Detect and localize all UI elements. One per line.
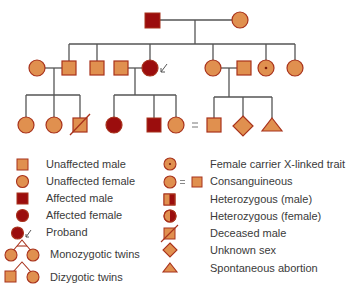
legend-label-heterozygous-female: Heterozygous (female)	[210, 210, 321, 223]
unaffected-male-symbol	[207, 118, 221, 132]
unaffected-male-symbol	[62, 61, 76, 75]
unaffected-male-symbol	[237, 61, 251, 75]
proband-icon	[12, 227, 24, 239]
unaffected-male-symbol	[114, 61, 128, 75]
heterozygous-male-icon	[164, 194, 175, 205]
monozygotic-twins-icon	[5, 240, 39, 261]
legend-right-icons	[161, 158, 202, 272]
legend-label-spontaneous-abortion: Spontaneous abortion	[210, 262, 318, 275]
unaffected-female-symbol	[18, 117, 34, 133]
unaffected-male-symbol	[90, 61, 104, 75]
proband-symbol	[142, 60, 158, 76]
consanguineous-icon	[164, 176, 202, 188]
legend-label-unaffected-female: Unaffected female	[46, 175, 135, 188]
generation-3	[18, 114, 282, 136]
spontaneous-abortion-icon	[163, 263, 177, 272]
proband-arrow-icon	[26, 230, 31, 237]
unaffected-female-symbol	[287, 60, 303, 76]
heterozygous-female-icon	[164, 210, 176, 222]
unaffected-female-symbol	[168, 117, 184, 133]
unaffected-female-symbol	[205, 60, 221, 76]
dizygotic-twins-icon	[5, 262, 39, 283]
unaffected-female-icon	[17, 176, 29, 188]
affected-female-icon	[17, 210, 29, 222]
affected-female-symbol	[106, 117, 122, 133]
legend-label-deceased-male: Deceased male	[210, 227, 286, 240]
consanguinity-equals-icon	[192, 123, 198, 127]
unknown-sex-symbol	[233, 116, 253, 136]
legend-label-consanguineous: Consanguineous	[210, 175, 293, 188]
affected-male-symbol	[147, 118, 161, 132]
generation-2	[29, 60, 303, 76]
female-carrier-icon	[164, 158, 176, 170]
unaffected-female-symbol	[232, 12, 248, 28]
unaffected-male-icon	[17, 159, 28, 170]
legend-label-female-carrier: Female carrier X-linked trait	[210, 158, 345, 171]
affected-male-icon	[17, 193, 28, 204]
unaffected-female-symbol	[46, 117, 62, 133]
legend-label-dizygotic-twins: Dizygotic twins	[50, 271, 123, 284]
spontaneous-abortion-symbol	[262, 118, 282, 131]
proband-arrow-icon	[161, 64, 167, 72]
unaffected-female-symbol	[29, 60, 45, 76]
female-carrier-symbol	[258, 60, 274, 76]
affected-male-symbol	[145, 13, 160, 28]
unknown-sex-icon	[163, 243, 177, 257]
legend-label-unaffected-male: Unaffected male	[46, 158, 126, 171]
legend-label-affected-female: Affected female	[46, 209, 122, 222]
legend-label-heterozygous-male: Heterozygous (male)	[210, 193, 312, 206]
legend-label-monozygotic-twins: Monozygotic twins	[50, 248, 140, 261]
legend-left-icons	[5, 159, 39, 283]
deceased-male-icon	[161, 225, 178, 242]
legend-label-proband: Proband	[46, 226, 88, 239]
legend-label-unknown-sex: Unknown sex	[210, 244, 276, 257]
legend-label-affected-male: Affected male	[46, 192, 113, 205]
